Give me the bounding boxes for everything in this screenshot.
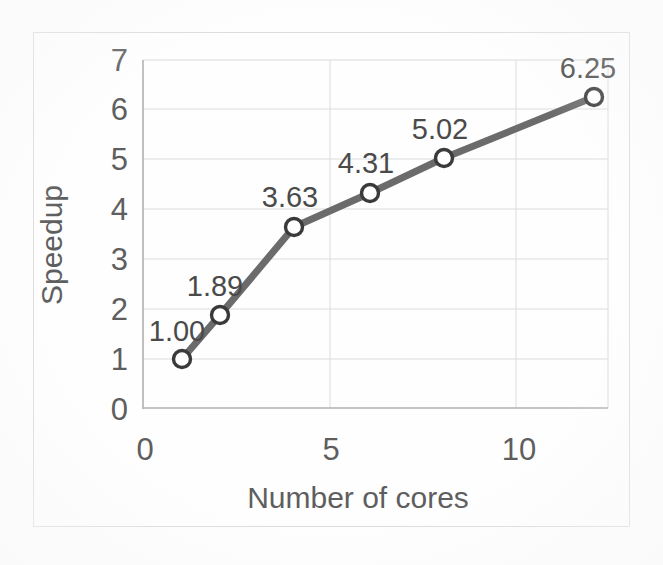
y-tick-label-3: 3 xyxy=(111,242,128,277)
speedup-vs-cores-line-chart: 7 6 5 4 3 2 1 0 0 5 10 Number of cores S… xyxy=(0,0,663,565)
y-tick-label-1: 1 xyxy=(111,342,128,377)
y-tick-label-7: 7 xyxy=(111,43,128,78)
data-label-12-cores: 6.25 xyxy=(560,52,616,84)
x-axis-tick-labels: 0 5 10 xyxy=(136,432,536,467)
y-axis-title: Speedup xyxy=(35,185,68,305)
data-label-1-core: 1.00 xyxy=(149,315,205,347)
data-point-marker-4-cores[interactable] xyxy=(286,219,303,236)
x-axis-title: Number of cores xyxy=(247,481,469,514)
speedup-data-line xyxy=(182,97,594,359)
data-label-2-cores: 1.89 xyxy=(187,270,243,302)
x-tick-label-5: 5 xyxy=(322,432,339,467)
y-tick-label-2: 2 xyxy=(111,292,128,327)
y-tick-label-4: 4 xyxy=(111,192,128,227)
data-point-marker-6-cores[interactable] xyxy=(362,185,379,202)
data-label-4-cores: 3.63 xyxy=(262,181,318,213)
y-tick-label-0: 0 xyxy=(111,392,128,427)
y-tick-label-6: 6 xyxy=(111,92,128,127)
data-point-markers xyxy=(174,89,603,368)
data-point-value-labels: 1.00 1.89 3.63 4.31 5.02 6.25 xyxy=(149,52,616,347)
data-point-marker-8-cores[interactable] xyxy=(436,150,453,167)
y-tick-label-5: 5 xyxy=(111,142,128,177)
data-label-6-cores: 4.31 xyxy=(338,147,394,179)
x-tick-label-10: 10 xyxy=(502,432,536,467)
figure-container: 7 6 5 4 3 2 1 0 0 5 10 Number of cores S… xyxy=(0,0,663,565)
data-point-marker-1-core[interactable] xyxy=(174,351,191,368)
x-tick-label-0: 0 xyxy=(136,432,153,467)
y-axis-tick-labels: 7 6 5 4 3 2 1 0 xyxy=(111,43,128,427)
vertical-gridlines xyxy=(330,60,608,408)
data-point-marker-12-cores[interactable] xyxy=(586,89,603,106)
data-label-8-cores: 5.02 xyxy=(412,113,468,145)
data-point-marker-2-cores[interactable] xyxy=(212,307,229,324)
